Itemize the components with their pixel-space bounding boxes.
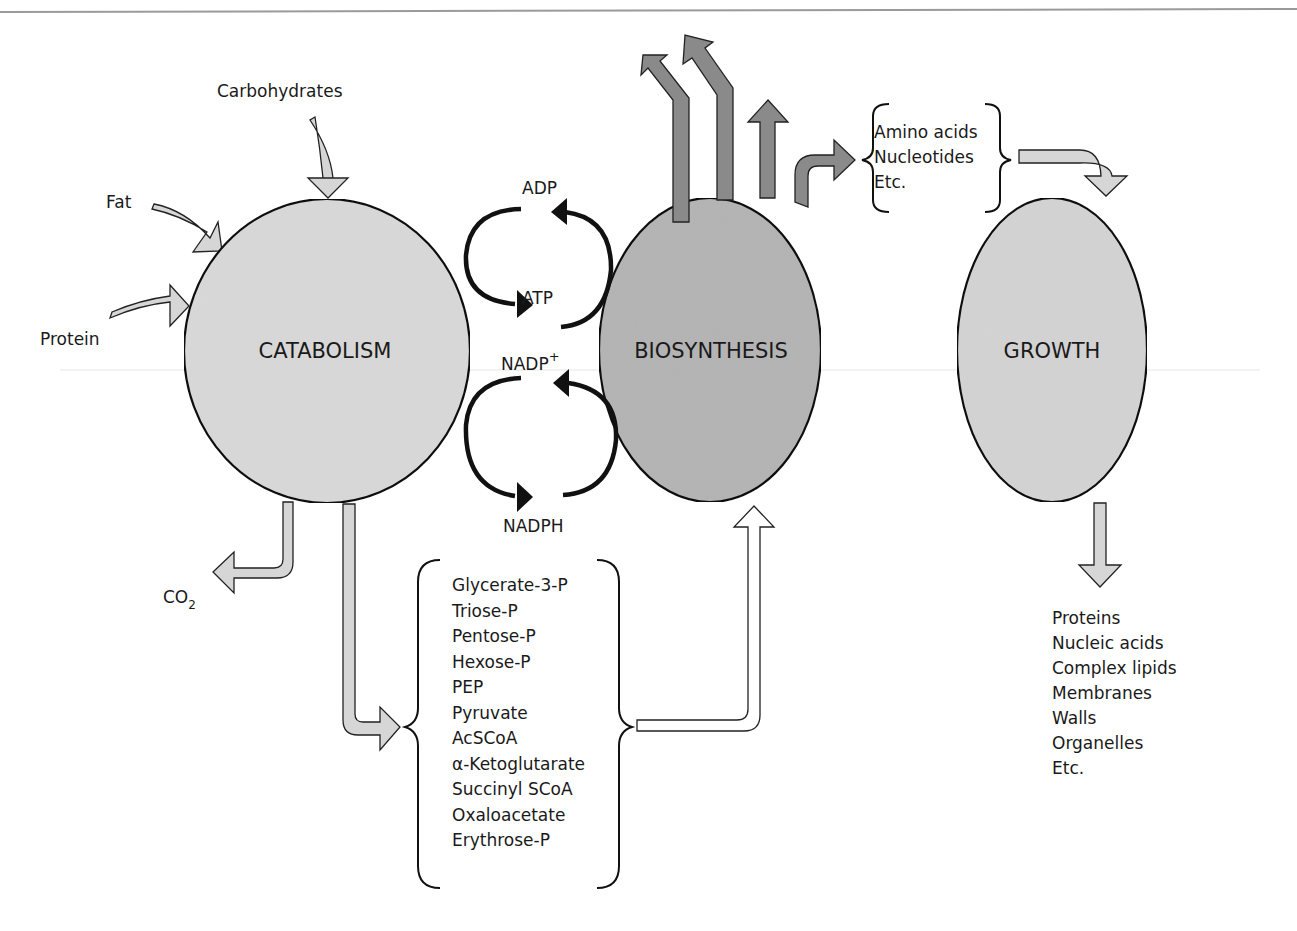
atp-label: ATP [522,288,553,308]
fat-arrow [152,204,222,252]
nadp-nadph-cycle [466,378,616,496]
growth-product-item: Proteins [1052,608,1121,628]
precursor-item: Hexose-P [452,652,531,672]
biosynthesis-out-arrow-3 [748,100,788,198]
carbohydrates-label: Carbohydrates [217,81,343,101]
precursor-item: AcSCoA [452,728,518,748]
growth-product-item: Nucleic acids [1052,633,1164,653]
growth-out-arrow [1079,503,1121,587]
building-block-item: Nucleotides [874,147,974,167]
precursor-item: α-Ketoglutarate [452,754,585,774]
biosynthesis-out-arrow-2 [683,35,733,200]
fat-label: Fat [106,192,132,212]
biosynthesis-label: BIOSYNTHESIS [634,339,788,363]
atp-adp-cycle [466,209,611,327]
carbohydrates-arrow [308,117,348,198]
precursor-item: Triose-P [451,601,518,621]
growth-product-item: Membranes [1052,683,1152,703]
precursor-item: Pyruvate [452,703,528,723]
growth-product-item: Complex lipids [1052,658,1177,678]
precursors-right-brace [597,560,632,888]
building-blocks-list: Amino acids Nucleotides Etc. [874,122,978,192]
precursor-item: Pentose-P [452,626,536,646]
nadp-arrowhead-icon [553,369,569,397]
building-block-item: Amino acids [874,122,978,142]
growth-products-list: ProteinsNucleic acidsComplex lipidsMembr… [1052,608,1177,778]
protein-label: Protein [40,329,100,349]
biosynthesis-out-arrow-1 [641,55,689,222]
co2-arrow [213,502,293,593]
building-block-item: Etc. [874,172,906,192]
precursor-item: Erythrose-P [452,830,550,850]
catabolism-label: CATABOLISM [259,339,392,363]
growth-product-item: Etc. [1052,758,1084,778]
growth-product-item: Organelles [1052,733,1143,753]
metabolism-diagram: CATABOLISM BIOSYNTHESIS GROWTH Carbohydr… [0,0,1297,931]
precursor-item: PEP [452,677,483,697]
precursors-list: Glycerate-3-PTriose-PPentose-PHexose-PPE… [451,575,585,850]
growth-label: GROWTH [1004,339,1101,363]
precursor-item: Glycerate-3-P [452,575,568,595]
biosynthesis-out-arrow-4 [795,140,855,207]
adp-label: ADP [522,178,557,198]
precursor-arrow-body [343,504,400,750]
precursor-item: Oxaloacetate [452,805,565,825]
building-blocks-right-brace [985,104,1011,212]
to-growth-arrow [1019,150,1127,196]
protein-arrow [110,285,189,326]
nadph-arrowhead-icon [517,482,533,512]
nadph-label: NADPH [503,516,563,536]
precursors-to-biosynthesis-arrow [637,506,774,731]
adp-arrowhead-icon [551,198,567,225]
growth-product-item: Walls [1052,708,1097,728]
top-rule [0,9,1297,12]
precursors-left-brace [405,560,440,888]
co2-label: CO2 [163,587,196,612]
precursor-item: Succinyl SCoA [452,779,573,799]
